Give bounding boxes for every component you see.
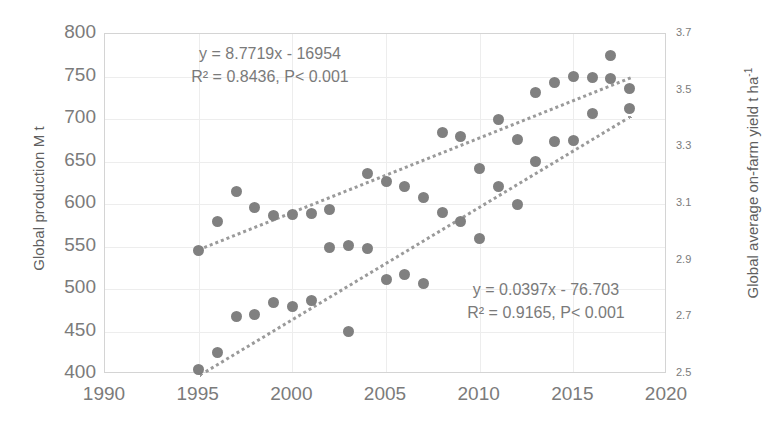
data-point — [530, 87, 541, 98]
y-axis-left-tick-label: 550 — [40, 234, 96, 256]
data-point — [362, 168, 373, 179]
data-point — [249, 202, 260, 213]
data-point — [474, 163, 485, 174]
x-axis-tick-label: 2010 — [444, 383, 514, 405]
x-axis-tick-label: 1995 — [163, 383, 233, 405]
y-axis-left-tick-label: 700 — [40, 106, 96, 128]
data-point — [455, 131, 466, 142]
data-point — [624, 83, 635, 94]
data-point — [455, 216, 466, 227]
annotation-production-equation-line1: y = 8.7719x - 16954 — [120, 42, 420, 65]
y-axis-right-tick-label: 2.5 — [676, 366, 710, 378]
data-point — [212, 347, 223, 358]
data-point — [530, 156, 541, 167]
x-axis-tick-label: 2000 — [256, 383, 326, 405]
y-axis-right-tick-label: 3.5 — [676, 83, 710, 95]
data-point — [287, 301, 298, 312]
x-axis-tick-label: 2015 — [537, 383, 607, 405]
data-point — [418, 192, 429, 203]
y-axis-right-tick-label: 3.3 — [676, 139, 710, 151]
x-axis-tick-label: 2005 — [350, 383, 420, 405]
data-point — [231, 186, 242, 197]
data-point — [587, 108, 598, 119]
y-axis-right-tick-label: 3.7 — [676, 26, 710, 38]
data-point — [343, 240, 354, 251]
data-point — [587, 72, 598, 83]
data-point — [268, 297, 279, 308]
y-axis-right-tick-label: 3.1 — [676, 196, 710, 208]
data-point — [231, 311, 242, 322]
gridline-horizontal — [105, 162, 665, 163]
y-axis-left-tick-label: 650 — [40, 149, 96, 171]
data-point — [605, 50, 616, 61]
y-axis-left-tick-label: 500 — [40, 276, 96, 298]
y-axis-left-tick-label: 400 — [40, 361, 96, 383]
y-axis-left-tick-label: 600 — [40, 191, 96, 213]
data-point — [512, 134, 523, 145]
y-axis-left-tick-label: 750 — [40, 64, 96, 86]
y-axis-left-tick-label: 450 — [40, 319, 96, 341]
data-point — [381, 274, 392, 285]
data-point — [437, 127, 448, 138]
x-axis-tick-label: 2020 — [631, 383, 701, 405]
data-point — [437, 207, 448, 218]
data-point — [212, 216, 223, 227]
data-point — [287, 209, 298, 220]
annotation-yield-equation-line2: R² = 0.9165, P< 0.001 — [396, 301, 696, 324]
data-point — [549, 77, 560, 88]
gridline-horizontal — [105, 332, 665, 333]
data-point — [493, 114, 504, 125]
data-point — [324, 242, 335, 253]
data-point — [193, 245, 204, 256]
y-axis-right-title-wrap: Global average on-farm yield t ha-1 — [714, 20, 760, 360]
y-axis-left-tick-label: 800 — [40, 21, 96, 43]
data-point — [568, 71, 579, 82]
data-point — [474, 233, 485, 244]
gridline-horizontal — [105, 247, 665, 248]
y-axis-right-tick-label: 2.9 — [676, 253, 710, 265]
data-point — [324, 204, 335, 215]
data-point — [362, 243, 373, 254]
data-point — [512, 199, 523, 210]
data-point — [381, 176, 392, 187]
y-axis-right-title-exponent: -1 — [743, 68, 754, 77]
gridline-horizontal — [105, 204, 665, 205]
annotation-yield-equation: y = 0.0397x - 76.703 R² = 0.9165, P< 0.0… — [396, 278, 696, 324]
annotation-yield-equation-line1: y = 0.0397x - 76.703 — [396, 278, 696, 301]
data-point — [306, 208, 317, 219]
data-point — [549, 136, 560, 147]
data-point — [249, 309, 260, 320]
annotation-production-equation: y = 8.7719x - 16954 R² = 0.8436, P< 0.00… — [120, 42, 420, 88]
data-point — [624, 103, 635, 114]
data-point — [493, 181, 504, 192]
y-axis-right-title: Global average on-farm yield t ha-1 — [743, 13, 761, 353]
data-point — [399, 181, 410, 192]
gridline-horizontal — [105, 119, 665, 120]
data-point — [568, 135, 579, 146]
data-point — [306, 295, 317, 306]
scatter-chart: Global production M t Global average on-… — [0, 0, 778, 422]
data-point — [343, 326, 354, 337]
x-axis-tick-label: 1990 — [69, 383, 139, 405]
y-axis-right-title-text: Global average on-farm yield t ha — [744, 77, 761, 299]
annotation-production-equation-line2: R² = 0.8436, P< 0.001 — [120, 65, 420, 88]
trendline — [199, 77, 631, 251]
data-point — [605, 73, 616, 84]
